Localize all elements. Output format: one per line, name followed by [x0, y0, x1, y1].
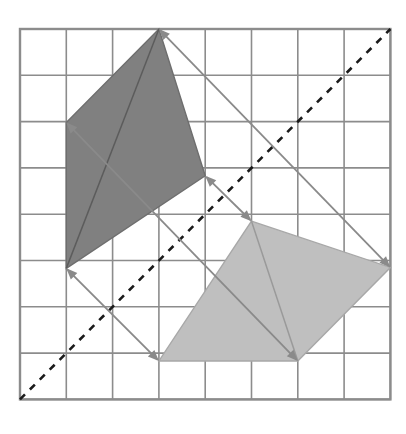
arrow-vertex-right-shaft	[207, 177, 250, 220]
figure-canvas	[0, 0, 406, 434]
reflection-figure: Reflection of a quadrilateral across a d…	[0, 0, 406, 434]
dark-quadrilateral	[66, 29, 205, 268]
